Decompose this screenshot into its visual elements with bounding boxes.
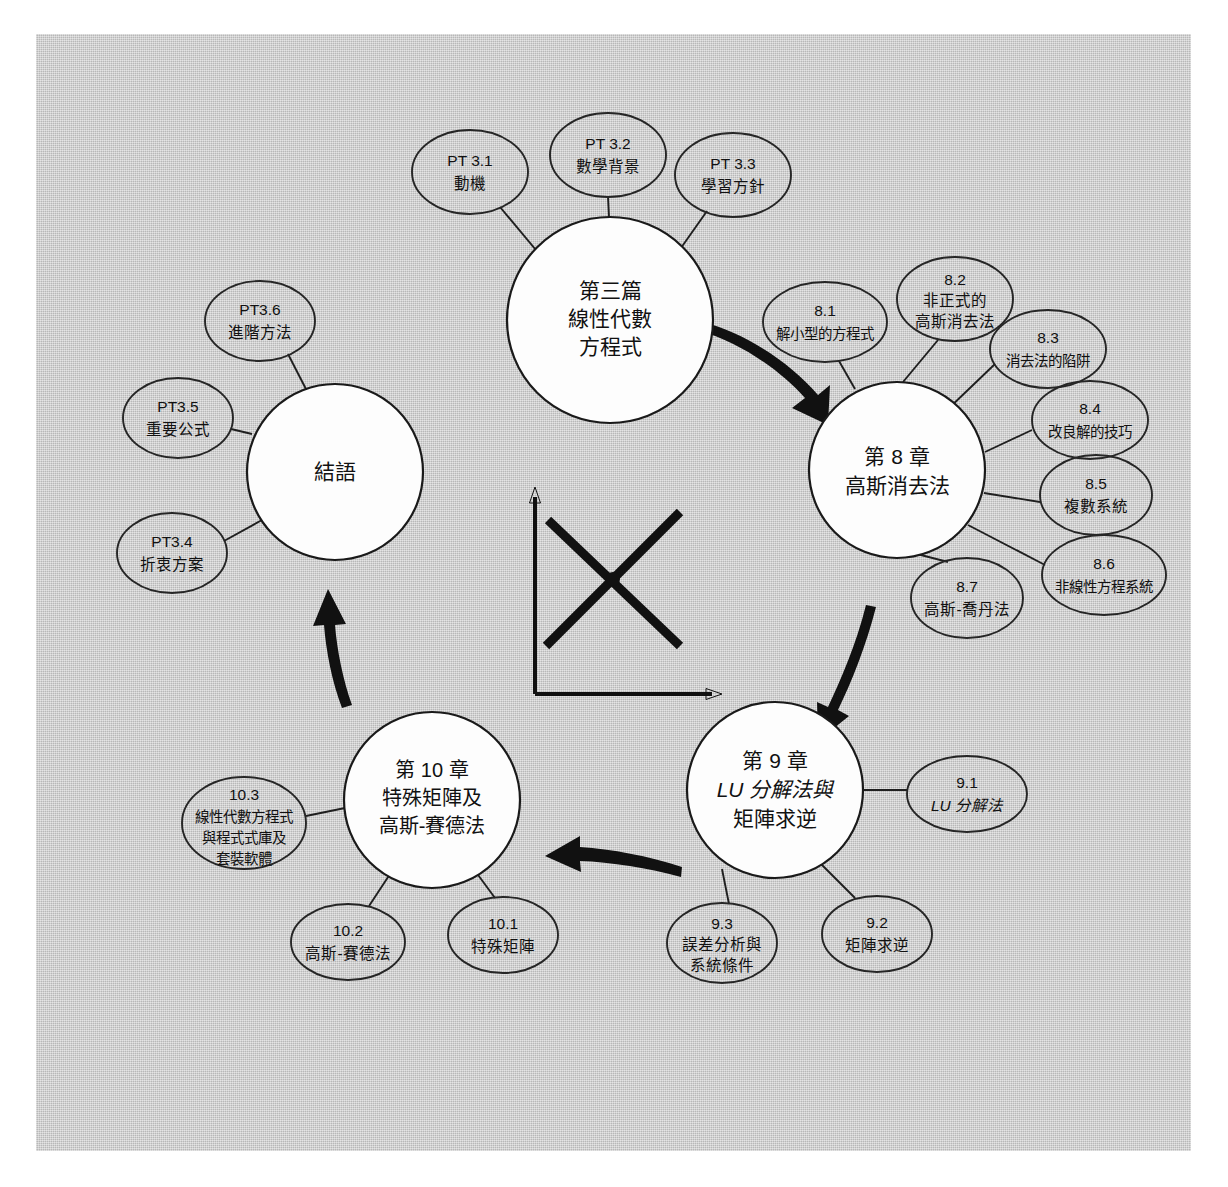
sub-node-shape: [1032, 381, 1148, 459]
main-node-line: LU 分解法與: [717, 778, 836, 801]
sub-node-line: 折衷方案: [140, 556, 204, 573]
sub-node-line: PT 3.2: [585, 135, 630, 152]
sub-node-line: 套裝軟體: [216, 851, 272, 867]
main-node-line: 結語: [314, 460, 356, 483]
sub-node-pt3-4[interactable]: PT3.4 折衷方案: [117, 513, 227, 593]
sub-node-line: 線性代數方程式: [195, 809, 294, 825]
main-node-part3[interactable]: 第三篇 線性代數 方程式: [507, 217, 713, 423]
sub-node-shape: [1040, 455, 1152, 535]
sub-node-line: 與程式式庫及: [202, 830, 286, 846]
sub-node-10-1[interactable]: 10.1 特殊矩陣: [448, 897, 558, 973]
sub-node-line: 9.2: [866, 914, 888, 931]
connector-ch10-10-3: [306, 808, 345, 816]
main-node-line: 第 8 章: [864, 445, 929, 468]
sub-node-line: 改良解的技巧: [1048, 424, 1132, 440]
sub-node-line: PT 3.1: [447, 152, 492, 169]
main-node-line: 方程式: [579, 335, 642, 358]
main-node-line: 第 9 章: [742, 749, 807, 772]
arrow-ch9-to-ch10: [545, 836, 682, 877]
sub-node-line: 8.1: [814, 302, 836, 319]
sub-node-10-3[interactable]: 10.3 線性代數方程式 與程式式庫及 套裝軟體: [182, 777, 306, 869]
connector-ch8-8-2: [903, 340, 938, 382]
sub-node-9-3[interactable]: 9.3 誤差分析與 系統條件: [667, 903, 777, 983]
sub-node-shape: [123, 378, 233, 458]
sub-node-line: 8.2: [944, 271, 966, 288]
sub-node-shape: [907, 756, 1027, 832]
sub-node-line: 系統條件: [690, 957, 754, 974]
sub-node-line: 10.1: [488, 915, 518, 932]
crossing-lines-graph-icon: [530, 487, 723, 700]
sub-node-8-4[interactable]: 8.4 改良解的技巧: [1032, 381, 1148, 459]
sub-node-line: 誤差分析與: [682, 936, 762, 953]
sub-node-line: 高斯消去法: [915, 313, 995, 330]
sub-node-line: 非正式的: [923, 292, 987, 309]
main-node-line: 特殊矩陣及: [382, 787, 482, 809]
sub-node-line: 重要公式: [146, 421, 210, 438]
diagram-page: PT 3.1 動機 PT 3.2 數學背景 PT 3.3 學習方針 PT3.6 …: [0, 0, 1228, 1187]
sub-node-shape: [822, 896, 932, 972]
sub-node-9-1[interactable]: 9.1 LU 分解法: [907, 756, 1027, 832]
sub-node-line: 高斯-賽德法: [305, 945, 390, 962]
sub-node-line: 特殊矩陣: [471, 938, 535, 955]
connector-ch8-8-5: [984, 493, 1040, 502]
sub-node-10-2[interactable]: 10.2 高斯-賽德法: [291, 904, 405, 980]
sub-node-line: 矩陣求逆: [845, 937, 909, 954]
sub-node-8-6[interactable]: 8.6 非線性方程系統: [1042, 535, 1166, 615]
sub-node-line: 學習方針: [701, 177, 765, 195]
main-node-line: 高斯-賽德法: [379, 815, 486, 837]
connector-ch9-9-3: [722, 869, 729, 904]
sub-node-pt3-6[interactable]: PT3.6 進階方法: [205, 281, 315, 361]
sub-node-line: 9.1: [956, 774, 978, 791]
main-node-line: 高斯消去法: [845, 474, 950, 497]
main-node-line: 線性代數: [568, 307, 652, 330]
sub-node-line: PT3.6: [239, 301, 280, 318]
sub-node-line: 8.4: [1079, 400, 1101, 417]
sub-node-line: 進階方法: [228, 324, 292, 341]
sub-node-line: 解小型的方程式: [776, 326, 875, 342]
main-node-chapter9[interactable]: 第 9 章 LU 分解法與 矩陣求逆: [687, 702, 863, 878]
connector-part3-pt3-2: [608, 197, 609, 217]
sub-node-line: LU 分解法: [931, 797, 1004, 814]
main-node-line: 第 10 章: [395, 759, 468, 781]
sub-node-line: 10.2: [333, 922, 363, 939]
main-node-chapter8[interactable]: 第 8 章 高斯消去法: [809, 382, 985, 558]
sub-node-line: 動機: [454, 175, 486, 192]
sub-node-line: 8.3: [1037, 329, 1059, 346]
sub-node-line: 複數系統: [1064, 498, 1128, 515]
main-node-chapter10[interactable]: 第 10 章 特殊矩陣及 高斯-賽德法: [344, 712, 520, 888]
main-node-epilogue[interactable]: 結語: [247, 384, 423, 560]
sub-node-line: 8.7: [956, 578, 978, 595]
sub-node-8-2[interactable]: 8.2 非正式的 高斯消去法: [897, 257, 1013, 341]
main-node-line: 第三篇: [579, 279, 642, 302]
main-node-shape: [809, 382, 985, 558]
sub-node-9-2[interactable]: 9.2 矩陣求逆: [822, 896, 932, 972]
sub-node-pt3-2[interactable]: PT 3.2 數學背景: [550, 113, 666, 197]
sub-node-pt3-3[interactable]: PT 3.3 學習方針: [675, 133, 791, 217]
sub-node-shape: [990, 310, 1106, 388]
sub-node-line: 高斯-喬丹法: [924, 601, 1009, 618]
sub-node-shape: [412, 130, 528, 214]
sub-node-line: PT3.5: [157, 398, 198, 415]
sub-node-8-7[interactable]: 8.7 高斯-喬丹法: [911, 558, 1023, 638]
sub-node-shape: [911, 558, 1023, 638]
sub-node-8-3[interactable]: 8.3 消去法的陷阱: [990, 310, 1106, 388]
sub-node-line: 消去法的陷阱: [1006, 353, 1090, 369]
sub-node-line: 8.6: [1093, 555, 1115, 572]
sub-node-line: PT 3.3: [710, 155, 755, 172]
sub-node-pt3-1[interactable]: PT 3.1 動機: [412, 130, 528, 214]
sub-node-shape: [205, 281, 315, 361]
mind-map-svg: PT 3.1 動機 PT 3.2 數學背景 PT 3.3 學習方針 PT3.6 …: [0, 0, 1228, 1187]
sub-node-shape: [1042, 535, 1166, 615]
sub-node-line: PT3.4: [151, 533, 193, 550]
sub-node-8-5[interactable]: 8.5 複數系統: [1040, 455, 1152, 535]
sub-node-shape: [291, 904, 405, 980]
connector-epilogue-pt3-4: [224, 520, 262, 541]
sub-node-line: 數學背景: [576, 157, 640, 175]
sub-node-shape: [675, 133, 791, 217]
sub-node-pt3-5[interactable]: PT3.5 重要公式: [123, 378, 233, 458]
sub-node-8-1[interactable]: 8.1 解小型的方程式: [763, 282, 887, 362]
connector-epilogue-pt3-6: [288, 354, 308, 393]
sub-node-line: 10.3: [229, 786, 259, 803]
sub-node-line: 8.5: [1085, 475, 1107, 492]
sub-node-shape: [763, 282, 887, 362]
